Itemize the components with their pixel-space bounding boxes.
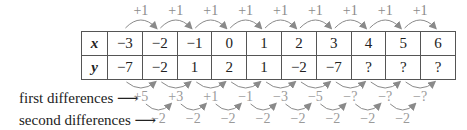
second-difference-arrow (181, 104, 206, 110)
first-differences-label: first differences ⟶ (19, 89, 139, 107)
first-difference-arrow (371, 82, 400, 88)
first-difference-value: −1 (238, 89, 253, 105)
x-cell: 6 (421, 32, 456, 56)
y-header: y (82, 56, 108, 80)
first-difference-value: +5 (133, 89, 148, 105)
step-arrow (160, 20, 191, 28)
y-cell: −7 (316, 56, 351, 80)
step-label: +1 (133, 3, 148, 19)
y-cell: ? (421, 56, 456, 80)
step-label: +1 (203, 3, 218, 19)
xy-table: x −3 −2 −1 0 1 2 3 4 5 6 y −7 −2 1 2 1 −… (81, 31, 456, 80)
y-cell: ? (386, 56, 421, 80)
first-difference-arrow (231, 82, 260, 88)
x-header: x (82, 32, 108, 56)
second-difference-value: −2 (360, 111, 375, 127)
second-differences-text: second differences (19, 112, 131, 128)
first-difference-arrow (266, 82, 295, 88)
first-difference-value: +1 (203, 89, 218, 105)
x-cell: 4 (351, 32, 386, 56)
step-arrow (265, 20, 296, 28)
second-difference-value: −2 (151, 111, 166, 127)
second-difference-arrow (216, 104, 241, 110)
step-label: +1 (413, 3, 428, 19)
y-cell: ? (351, 56, 386, 80)
x-cell: 3 (316, 32, 351, 56)
second-difference-value: −2 (395, 111, 410, 127)
step-arrow (125, 20, 156, 28)
first-difference-value: −? (413, 89, 427, 105)
x-cell: 2 (281, 32, 316, 56)
step-arrow (335, 20, 366, 28)
first-difference-value: +3 (168, 89, 183, 105)
second-difference-value: −2 (290, 111, 305, 127)
x-cell: −2 (142, 32, 177, 56)
second-difference-value: −2 (325, 111, 340, 127)
x-row: x −3 −2 −1 0 1 2 3 4 5 6 (82, 32, 456, 56)
first-difference-arrow (406, 82, 435, 88)
step-label: +1 (378, 3, 393, 19)
step-label: +1 (308, 3, 323, 19)
x-cell: 5 (386, 32, 421, 56)
finite-differences-diagram: +1+1+1+1+1+1+1+1+1 x −3 −2 −1 0 1 2 3 4 … (0, 0, 467, 130)
second-difference-arrow (320, 104, 345, 110)
y-cell: 1 (247, 56, 282, 80)
y-cell: 2 (212, 56, 247, 80)
second-differences-label: second differences ⟶ (19, 111, 156, 129)
first-difference-arrow (301, 82, 330, 88)
second-difference-arrow (146, 104, 171, 110)
step-arrows (125, 20, 435, 28)
second-difference-value: −2 (221, 111, 236, 127)
first-difference-arrow (126, 82, 155, 88)
first-difference-arrow (161, 82, 190, 88)
step-arrow (195, 20, 226, 28)
first-differences-text: first differences (19, 90, 113, 106)
step-arrow (230, 20, 261, 28)
second-difference-value: −2 (256, 111, 271, 127)
step-label: +1 (343, 3, 358, 19)
first-difference-value: −? (378, 89, 392, 105)
step-arrow (370, 20, 401, 28)
second-difference-arrow (390, 104, 415, 110)
first-difference-value: −? (343, 89, 357, 105)
step-arrow (405, 20, 436, 28)
step-label: +1 (168, 3, 183, 19)
x-cell: 0 (212, 32, 247, 56)
second-difference-arrow (251, 104, 276, 110)
step-label: +1 (238, 3, 253, 19)
y-cell: −2 (281, 56, 316, 80)
first-difference-arrow (196, 82, 225, 88)
x-cell: 1 (247, 32, 282, 56)
second-difference-value: −2 (186, 111, 201, 127)
first-difference-arrow (336, 82, 365, 88)
first-difference-arrows (126, 82, 434, 88)
y-cell: −7 (108, 56, 143, 80)
x-cell: −3 (108, 32, 143, 56)
step-arrow (300, 20, 331, 28)
second-difference-arrow (286, 104, 311, 110)
x-cell: −1 (177, 32, 212, 56)
step-label: +1 (273, 3, 288, 19)
second-difference-arrow (355, 104, 380, 110)
y-row: y −7 −2 1 2 1 −2 −7 ? ? ? (82, 56, 456, 80)
first-difference-value: −5 (308, 89, 323, 105)
first-difference-value: −3 (273, 89, 288, 105)
y-cell: 1 (177, 56, 212, 80)
y-cell: −2 (142, 56, 177, 80)
